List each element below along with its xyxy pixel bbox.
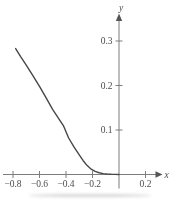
- x-axis-arrowhead-icon: [156, 171, 163, 177]
- x-tick-label: −0.8: [4, 179, 21, 189]
- x-tick-label: −0.2: [84, 179, 101, 189]
- y-tick-label: 0.2: [101, 81, 113, 91]
- y-tick-label: 0.1: [101, 125, 113, 135]
- function-curve: [16, 49, 119, 175]
- scan-artifact: [28, 194, 152, 197]
- x-tick-label: −0.6: [31, 179, 48, 189]
- plot-figure: xy−0.8−0.6−0.4−0.20.20.10.20.3: [0, 0, 173, 201]
- x-tick-label: −0.4: [57, 179, 74, 189]
- y-axis-label: y: [118, 3, 124, 13]
- y-tick-label: 0.3: [101, 36, 113, 46]
- x-tick-label: 0.2: [140, 179, 152, 189]
- x-axis-label: x: [164, 170, 170, 180]
- y-axis-arrowhead-icon: [116, 14, 122, 22]
- plot-svg: xy−0.8−0.6−0.4−0.20.20.10.20.3: [0, 0, 173, 201]
